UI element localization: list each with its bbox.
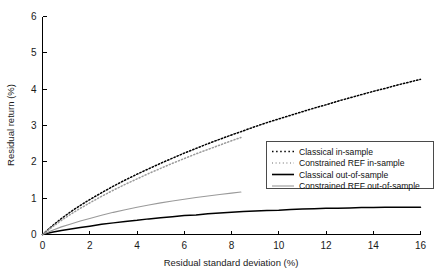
y-tick-label: 1 [31,193,37,204]
x-axis-ticks [43,231,421,235]
legend-label-0: Classical in-sample [299,147,373,157]
x-tick-label: 4 [134,240,140,251]
y-tick-label: 2 [31,156,37,167]
x-tick-label: 0 [40,240,46,251]
legend-label-1: Constrained REF in-sample [299,158,405,168]
legend-label-3: Constrained REF out-of-sample [299,181,420,191]
x-axis-tick-labels: 0246810121416 [40,240,427,251]
y-tick-label: 5 [31,47,37,58]
x-tick-label: 6 [181,240,187,251]
plot-axes [43,17,421,235]
y-axis-tick-labels: 0123456 [31,11,37,240]
legend-label-2: Classical out-of-sample [299,170,389,180]
y-tick-label: 4 [31,84,37,95]
y-tick-label: 6 [31,11,37,22]
x-tick-label: 12 [320,240,332,251]
x-tick-label: 2 [87,240,93,251]
x-tick-label: 14 [368,240,380,251]
x-tick-label: 16 [415,240,427,251]
y-tick-label: 0 [31,229,37,240]
legend: Classical in-sampleConstrained REF in-sa… [267,142,434,192]
x-tick-label: 8 [229,240,235,251]
y-axis-ticks [43,17,47,235]
x-axis-title: Residual standard deviation (%) [164,257,299,268]
axis-frame [43,17,421,235]
chart-figure: 0246810121416 0123456 Residual standard … [0,0,441,279]
residual-return-vs-risk-chart: 0246810121416 0123456 Residual standard … [0,0,441,279]
y-tick-label: 3 [31,120,37,131]
curve-series-2 [43,207,421,234]
x-tick-label: 10 [273,240,285,251]
y-axis-title: Residual return (%) [5,84,16,166]
